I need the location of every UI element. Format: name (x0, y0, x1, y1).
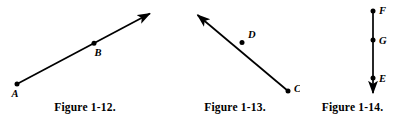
figure-1-13-diagram: D C (170, 0, 300, 101)
figure-1-12-caption: Figure 1-12. (0, 101, 170, 113)
point-g-dot (371, 38, 376, 43)
ray-ab-line (17, 14, 150, 85)
point-e-label: E (378, 73, 386, 84)
point-e-dot (371, 76, 376, 81)
figure-panel-1-13: D C Figure 1-13. (170, 0, 300, 129)
figure-panel-1-14: F G E Figure 1-14. (300, 0, 405, 129)
point-d-dot (240, 40, 245, 45)
point-b-label: B (93, 47, 101, 58)
point-a-dot (15, 82, 20, 87)
point-b-dot (92, 41, 97, 46)
figure-1-14-caption: Figure 1-14. (300, 101, 405, 113)
figure-1-14-diagram: F G E (300, 0, 405, 101)
figure-1-13-caption: Figure 1-13. (170, 101, 300, 113)
point-d-label: D (247, 29, 256, 40)
figure-panel-1-12: A B Figure 1-12. (0, 0, 170, 129)
figure-1-12-diagram: A B (0, 0, 170, 101)
point-f-dot (371, 9, 376, 14)
ray-cd-line (198, 15, 289, 91)
point-f-label: F (378, 5, 386, 16)
figure-sheet: A B Figure 1-12. D C Figure 1-13. (0, 0, 405, 129)
point-g-label: G (379, 35, 387, 46)
point-a-label: A (10, 88, 18, 99)
point-c-dot (286, 89, 291, 94)
